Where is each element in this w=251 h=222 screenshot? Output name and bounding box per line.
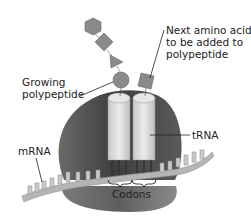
label-trna: tRNA xyxy=(192,129,218,141)
triangle-amino-acid xyxy=(110,55,123,68)
label-mrna: mRNA xyxy=(18,145,51,157)
circle-amino-acid xyxy=(113,72,129,88)
label-line: Growing xyxy=(22,76,84,88)
hexagon-amino-acid xyxy=(85,18,101,35)
label-codons: Codons xyxy=(112,188,151,200)
label-line: Next amino acid xyxy=(166,24,251,36)
label-next-amino-acid: Next amino acid to be added to polypepti… xyxy=(166,24,251,60)
label-line: polypeptide xyxy=(22,88,84,100)
label-growing-polypeptide: Growing polypeptide xyxy=(22,76,84,100)
label-line: polypeptide xyxy=(166,48,251,60)
label-line: to be added to xyxy=(166,36,251,48)
diamond-amino-acid xyxy=(95,33,113,51)
